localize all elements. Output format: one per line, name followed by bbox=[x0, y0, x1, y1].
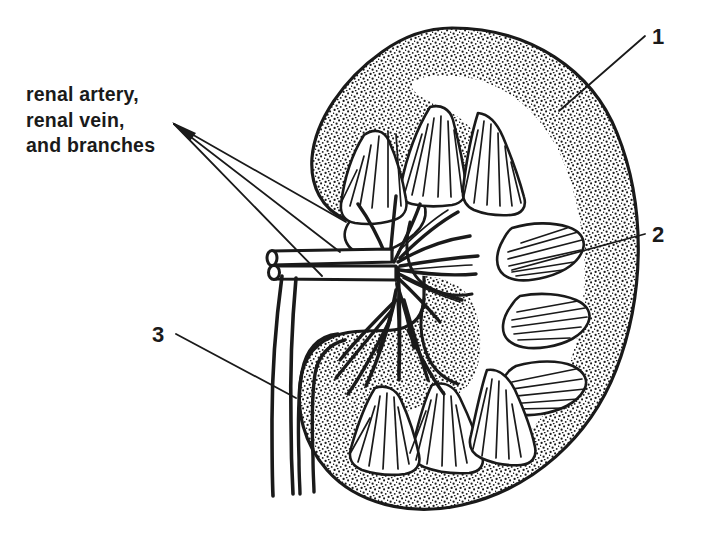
leader-line-3 bbox=[176, 334, 296, 398]
renal-artery bbox=[267, 249, 392, 266]
vessel-label-line-2: renal vein, bbox=[26, 109, 125, 131]
renal-vein bbox=[269, 266, 397, 281]
leader-line-branches bbox=[174, 124, 322, 276]
label-number-2: 2 bbox=[652, 222, 664, 248]
label-number-1: 1 bbox=[652, 24, 664, 50]
ureter bbox=[272, 276, 296, 496]
label-number-3: 3 bbox=[152, 322, 164, 348]
vessel-label: renal artery,renal vein,and branches bbox=[26, 82, 155, 159]
vessel-label-line-1: renal artery, bbox=[26, 83, 139, 105]
vessel-label-line-3: and branches bbox=[26, 134, 155, 156]
figure-canvas: renal artery,renal vein,and branches 1 2… bbox=[0, 0, 704, 557]
